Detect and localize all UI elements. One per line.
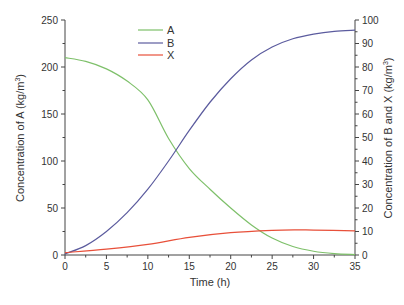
- y-tick-label-right: 50: [362, 132, 374, 143]
- legend: A B X: [138, 24, 175, 61]
- y-axis-label-right: Concentration of B and X (kg/m3): [382, 57, 394, 218]
- x-tick-label: 10: [142, 261, 154, 272]
- legend-label-a: A: [167, 24, 175, 36]
- y-tick-label-right: 90: [362, 38, 374, 49]
- x-tick-label: 35: [349, 261, 361, 272]
- y-tick-label-right: 10: [362, 226, 374, 237]
- series-line-b: [65, 30, 355, 254]
- y-tick-label-right: 60: [362, 109, 374, 120]
- y-axis-label-left: Concentration of A (kg/m3): [14, 74, 26, 202]
- y-tick-label-right: 0: [362, 250, 368, 261]
- x-axis-label: Time (h): [190, 276, 231, 288]
- y-tick-label-left: 100: [41, 156, 58, 167]
- series-lines: [65, 30, 355, 254]
- legend-label-x: X: [167, 49, 175, 61]
- x-tick-label: 0: [62, 261, 68, 272]
- y-tick-label-right: 40: [362, 156, 374, 167]
- y-tick-label-left: 200: [41, 62, 58, 73]
- y-tick-label-right: 30: [362, 179, 374, 190]
- legend-label-b: B: [167, 37, 174, 49]
- x-tick-label: 15: [184, 261, 196, 272]
- y-tick-label-left: 150: [41, 109, 58, 120]
- axes: 0510152025303505010015020025001020304050…: [41, 15, 379, 273]
- chart: 0510152025303505010015020025001020304050…: [0, 0, 404, 305]
- x-tick-label: 25: [267, 261, 279, 272]
- y-tick-label-right: 80: [362, 62, 374, 73]
- x-tick-label: 30: [308, 261, 320, 272]
- y-tick-label-left: 0: [52, 250, 58, 261]
- series-line-a: [65, 58, 355, 255]
- y-tick-label-left: 250: [41, 15, 58, 26]
- y-tick-label-right: 20: [362, 203, 374, 214]
- y-tick-label-left: 50: [47, 203, 59, 214]
- x-tick-label: 20: [225, 261, 237, 272]
- series-line-x: [65, 230, 355, 253]
- y-tick-label-right: 70: [362, 85, 374, 96]
- x-tick-label: 5: [104, 261, 110, 272]
- y-tick-label-right: 100: [362, 15, 379, 26]
